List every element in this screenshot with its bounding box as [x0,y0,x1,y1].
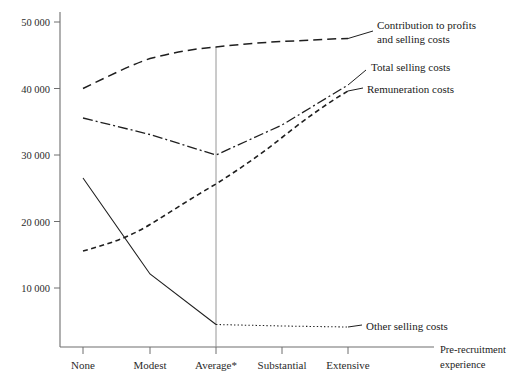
series-label-contribution-line2: and selling costs [377,33,450,45]
x-label-modest: Modest [134,359,167,371]
y-tick-label-10000: 10 000 [21,283,50,294]
y-tick-label-30000: 30 000 [21,150,50,161]
series-leader-total-selling-costs [348,70,366,85]
series-label-remuneration-costs: Remuneration costs [367,83,454,95]
series-label-total-selling-costs: Total selling costs [371,61,450,73]
x-label-extensive: Extensive [326,359,369,371]
x-axis-title-line2: experience [440,359,486,370]
series-line-contribution [83,39,348,89]
series-line-remuneration-costs [83,91,348,251]
series-leader-other-selling-costs [348,325,362,327]
series-label-contribution-line1: Contribution to profits [377,19,476,31]
y-tick-label-20000: 20 000 [21,217,50,228]
chart-figure: 50 000 40 000 30 000 20 000 10 000 None … [0,0,512,383]
y-tick-label-50000: 50 000 [21,17,50,28]
y-tick-label-40000: 40 000 [21,84,50,95]
series-leader-remuneration-costs [348,88,363,91]
chart-svg: 50 000 40 000 30 000 20 000 10 000 None … [0,0,512,383]
series-leader-contribution [348,31,373,39]
x-label-none: None [71,359,95,371]
x-label-substantial: Substantial [258,359,307,371]
series-line-other-selling-costs-dotted [216,325,348,328]
x-axis-title-line1: Pre-recruitment [440,344,506,355]
x-label-average: Average* [195,359,237,371]
series-line-other-selling-costs-solid [83,178,216,325]
series-label-other-selling-costs: Other selling costs [366,320,448,332]
series-line-total-selling-costs [83,85,348,155]
